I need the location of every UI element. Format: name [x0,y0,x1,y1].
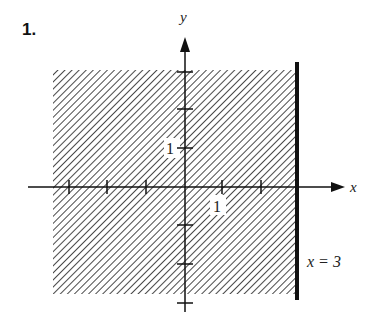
x-axis-label: x [349,179,357,195]
coordinate-plane: y x 1 1 x = 3 [0,0,376,335]
boundary-label: x = 3 [306,253,341,270]
y-tick-label-1: 1 [166,140,174,157]
x-tick-label-1: 1 [213,198,221,215]
y-axis-label: y [178,9,187,25]
